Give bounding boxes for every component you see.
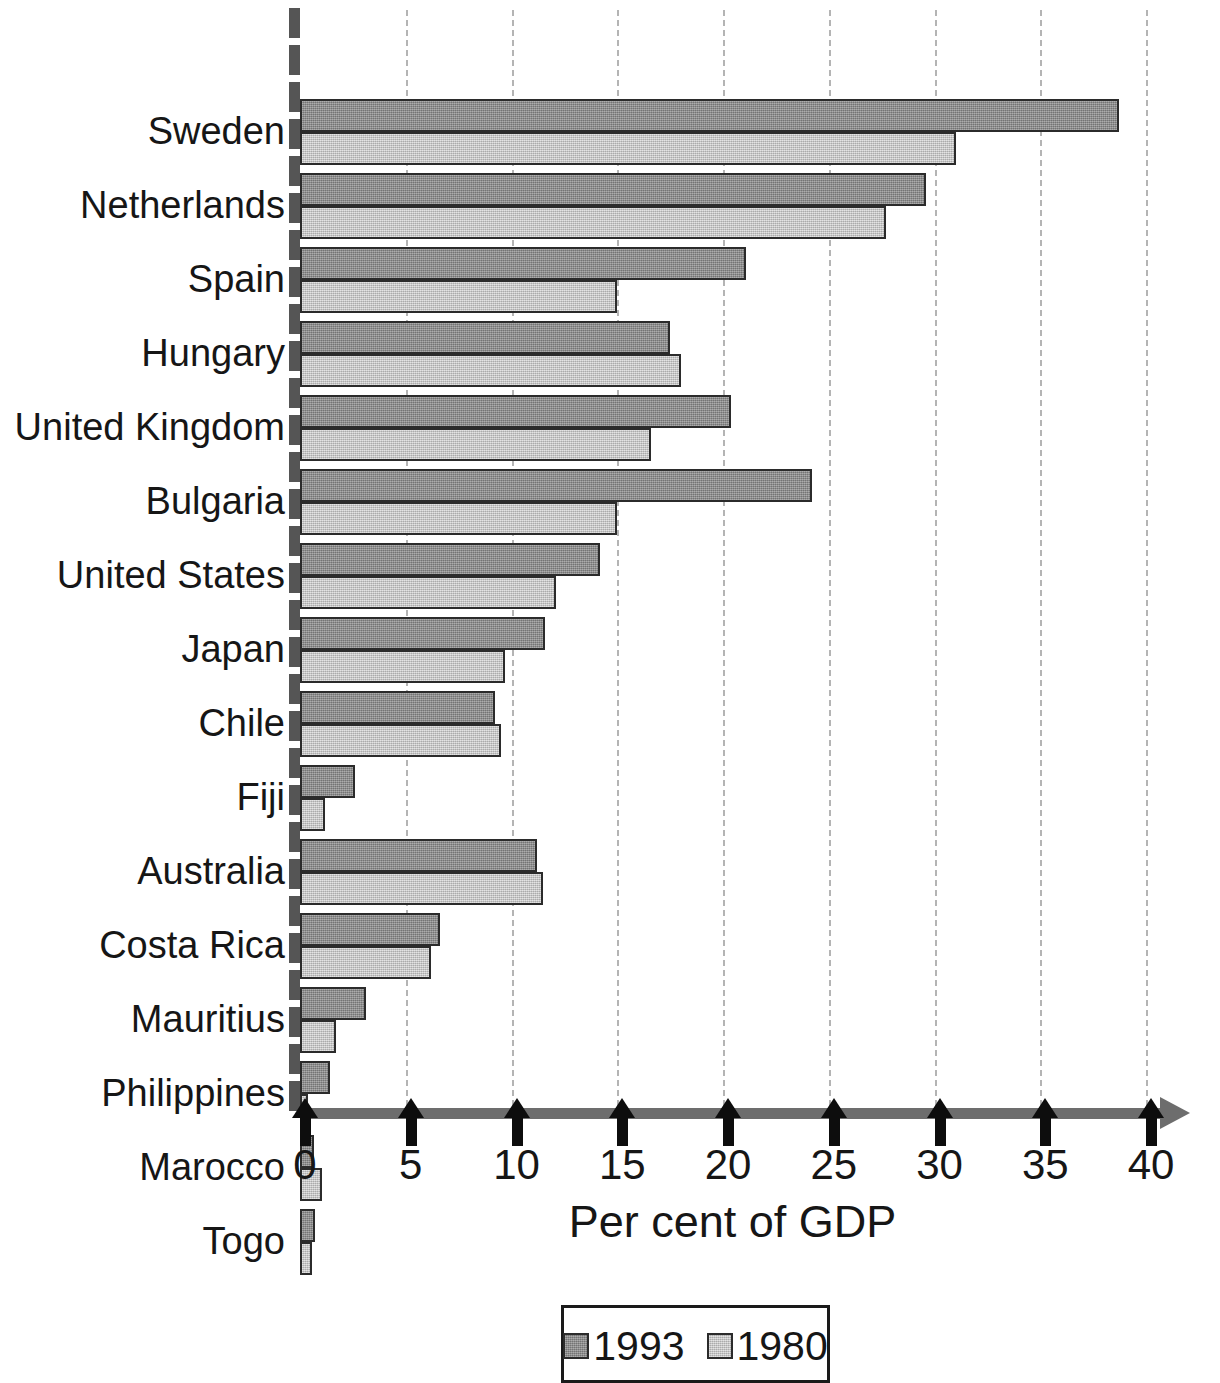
bar (300, 1061, 330, 1094)
category-label: Bulgaria (0, 480, 285, 522)
x-tick-arrow-icon (398, 1098, 424, 1146)
category-label: Netherlands (0, 184, 285, 226)
x-tick-label: 25 (789, 1142, 879, 1188)
x-tick-arrow-icon (1138, 1098, 1164, 1146)
category-label: Costa Rica (0, 924, 285, 966)
x-tick-label: 35 (1000, 1142, 1090, 1188)
bar (300, 502, 617, 535)
legend-swatch-icon (563, 1333, 589, 1359)
bar-group (300, 395, 1180, 461)
category-label: Japan (0, 628, 285, 670)
x-tick-arrow-icon (609, 1098, 635, 1146)
x-tick-arrow-icon (1032, 1098, 1058, 1146)
category-label: Philippines (0, 1072, 285, 1114)
bar (300, 395, 731, 428)
category-label: United States (0, 554, 285, 596)
bar (300, 469, 812, 502)
category-label: Togo (0, 1220, 285, 1262)
bar (300, 247, 746, 280)
plot-area (300, 10, 1180, 1116)
x-axis-title: Per cent of GDP (300, 1196, 1165, 1248)
category-label: Australia (0, 850, 285, 892)
bar (300, 987, 366, 1020)
x-axis-arrow-icon (1160, 1097, 1190, 1129)
x-tick-label: 20 (683, 1142, 773, 1188)
bar-group (300, 469, 1180, 535)
bar (300, 576, 556, 609)
x-tick-arrow-icon (821, 1098, 847, 1146)
legend-label: 1980 (737, 1324, 828, 1368)
x-tick-label: 0 (260, 1142, 350, 1188)
x-tick-label: 40 (1106, 1142, 1196, 1188)
bar (300, 132, 956, 165)
x-tick-label: 30 (895, 1142, 985, 1188)
bar (300, 321, 670, 354)
x-tick-arrow-icon (715, 1098, 741, 1146)
bar (300, 428, 651, 461)
bar-group (300, 99, 1180, 165)
bar (300, 765, 355, 798)
legend-swatch-icon (707, 1333, 733, 1359)
bar-group (300, 321, 1180, 387)
bar (300, 99, 1119, 132)
bar (300, 173, 926, 206)
bar (300, 280, 617, 313)
bar-group (300, 987, 1180, 1053)
bar-group (300, 765, 1180, 831)
x-tick-arrow-icon (927, 1098, 953, 1146)
bar-group (300, 247, 1180, 313)
bar (300, 1020, 336, 1053)
bar (300, 724, 501, 757)
bar (300, 872, 543, 905)
category-label: Sweden (0, 110, 285, 152)
legend-item[interactable]: 1993 (563, 1324, 684, 1368)
category-label: Chile (0, 702, 285, 744)
bar (300, 354, 681, 387)
category-label: Spain (0, 258, 285, 300)
bar-group (300, 691, 1180, 757)
bar-group (300, 173, 1180, 239)
bar-group (300, 617, 1180, 683)
bar-group (300, 839, 1180, 905)
category-label: Marocco (0, 1146, 285, 1188)
bar (300, 206, 886, 239)
legend-item[interactable]: 1980 (707, 1324, 828, 1368)
legend-label: 1993 (593, 1324, 684, 1368)
x-tick-label: 15 (577, 1142, 667, 1188)
x-tick-arrow-icon (292, 1098, 318, 1146)
category-label: United Kingdom (0, 406, 285, 448)
category-label: Hungary (0, 332, 285, 374)
bar (300, 617, 545, 650)
x-tick-label: 10 (472, 1142, 562, 1188)
bar-group (300, 543, 1180, 609)
y-axis-category-labels: SwedenNetherlandsSpainHungaryUnited King… (0, 10, 285, 1116)
bar (300, 946, 431, 979)
category-label: Mauritius (0, 998, 285, 1040)
bar-group (300, 913, 1180, 979)
legend: 19931980 (561, 1305, 830, 1383)
bar (300, 798, 325, 831)
x-tick-arrow-icon (504, 1098, 530, 1146)
bar (300, 543, 600, 576)
bar (300, 839, 537, 872)
bar (300, 691, 495, 724)
bar (300, 650, 505, 683)
category-label: Fiji (0, 776, 285, 818)
bar (300, 913, 440, 946)
x-tick-label: 5 (366, 1142, 456, 1188)
y-axis-line (289, 8, 300, 1118)
